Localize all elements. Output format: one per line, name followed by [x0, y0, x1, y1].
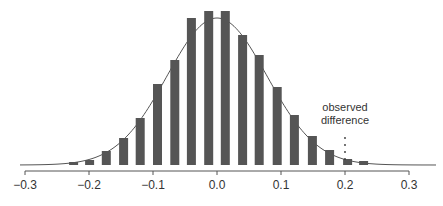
- histogram-bar: [308, 136, 317, 165]
- histogram-bar: [204, 11, 213, 165]
- annotation-dot: [344, 151, 346, 153]
- x-tick-label: 0.3: [401, 178, 418, 192]
- x-tick-label: −0.2: [77, 178, 101, 192]
- histogram-bar: [153, 84, 162, 165]
- histogram-bar: [221, 11, 230, 165]
- x-tick-label: 0.1: [273, 178, 290, 192]
- x-tick-label: 0.2: [337, 178, 354, 192]
- x-tick-label: −0.1: [141, 178, 165, 192]
- annotation-dotted-line: [344, 137, 346, 160]
- x-tick-label: −0.3: [13, 178, 37, 192]
- histogram-bar: [255, 55, 264, 165]
- histogram-bar: [136, 118, 145, 165]
- histogram-bar: [238, 35, 247, 165]
- annotation-dot: [344, 158, 346, 160]
- annotation-dot: [344, 144, 346, 146]
- histogram-chart: −0.3−0.2−0.10.00.10.20.3 observed differ…: [0, 0, 443, 206]
- histogram-bar: [290, 115, 299, 165]
- histogram-bar: [102, 151, 111, 165]
- annotation-line-1: observed: [322, 101, 367, 113]
- x-tick-label: 0.0: [209, 178, 226, 192]
- annotation-dot: [344, 137, 346, 139]
- x-axis: −0.3−0.2−0.10.00.10.20.3: [13, 171, 418, 192]
- histogram-bars: [69, 11, 368, 165]
- histogram-bar: [170, 60, 179, 165]
- histogram-bar: [85, 160, 94, 165]
- annotation-line-2: difference: [321, 114, 369, 126]
